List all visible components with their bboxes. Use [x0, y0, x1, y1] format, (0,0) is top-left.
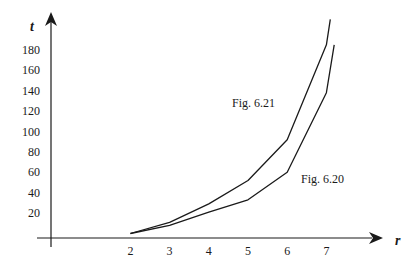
- y-tick-label: 160: [22, 63, 40, 77]
- x-tick-label: 3: [167, 244, 173, 258]
- x-tick-labels: 234567: [127, 244, 329, 258]
- y-tick-label: 100: [22, 125, 40, 139]
- y-axis-label: t: [30, 19, 35, 34]
- y-tick-label: 140: [22, 84, 40, 98]
- annotation-fig-6-20: Fig. 6.20: [301, 172, 344, 186]
- y-tick-label: 40: [28, 186, 40, 200]
- y-tick-label: 180: [22, 43, 40, 57]
- x-tick-label: 6: [284, 244, 290, 258]
- x-tick-label: 7: [323, 244, 329, 258]
- x-tick-label: 2: [127, 244, 133, 258]
- y-tick-label: 80: [28, 145, 40, 159]
- y-tick-labels: 20406080100120140160180: [22, 43, 40, 220]
- annotation-fig-6-21: Fig. 6.21: [232, 96, 275, 110]
- chart-plot-area: 20406080100120140160180 234567 t r Fig. …: [0, 0, 414, 267]
- series-line-fig-6-20: [130, 45, 334, 234]
- x-tick-label: 5: [245, 244, 251, 258]
- y-tick-label: 20: [28, 206, 40, 220]
- series-line-fig-6-21: [130, 19, 330, 233]
- data-series: [130, 19, 334, 233]
- x-tick-label: 4: [206, 244, 212, 258]
- y-tick-label: 120: [22, 104, 40, 118]
- x-axis-label: r: [395, 233, 401, 248]
- y-tick-label: 60: [28, 165, 40, 179]
